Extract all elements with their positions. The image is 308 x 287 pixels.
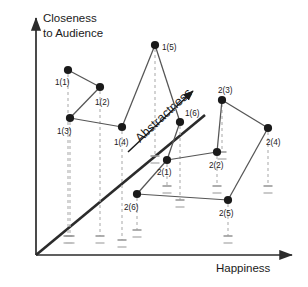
scatter-plot-svg: Closeness to Audience Happiness Abstract…: [0, 0, 308, 287]
data-point[interactable]: [163, 156, 171, 164]
data-point-label: 2(4): [266, 138, 281, 147]
series-link-line: [167, 122, 180, 160]
series-link-line: [217, 100, 222, 152]
series-link-line: [222, 100, 268, 128]
series-link-line: [228, 128, 268, 200]
series-link-line: [70, 118, 122, 127]
data-point-label: 1(3): [57, 127, 72, 136]
data-point-label: 1(1): [55, 78, 70, 87]
data-point[interactable]: [66, 114, 74, 122]
data-point[interactable]: [64, 66, 72, 74]
point-labels-group: 1(1)1(2)1(3)1(4)1(5)1(6)2(1)2(2)2(3)2(4)…: [55, 43, 281, 218]
y-axis-label-line2: to Audience: [43, 27, 103, 39]
data-point[interactable]: [96, 83, 104, 91]
data-point-label: 1(6): [185, 109, 200, 118]
data-point-label: 2(2): [209, 161, 224, 170]
data-point-label: 2(5): [219, 209, 234, 218]
abstractness-axis-line: [36, 115, 205, 255]
data-point[interactable]: [118, 123, 126, 131]
data-point[interactable]: [176, 118, 184, 126]
data-point[interactable]: [218, 96, 226, 104]
data-point[interactable]: [224, 196, 232, 204]
data-point[interactable]: [151, 41, 159, 49]
chart-container: Closeness to Audience Happiness Abstract…: [0, 0, 308, 287]
y-axis-label-line1: Closeness: [43, 12, 97, 24]
data-point-label: 1(4): [114, 138, 129, 147]
data-point[interactable]: [213, 148, 221, 156]
x-axis-label: Happiness: [216, 262, 271, 274]
series-link-line: [167, 152, 217, 160]
data-point-label: 1(2): [95, 98, 110, 107]
data-point[interactable]: [264, 124, 272, 132]
projection-lines-group: [64, 49, 273, 247]
data-point[interactable]: [133, 190, 141, 198]
series-link-line: [137, 160, 167, 194]
data-point-label: 2(1): [157, 168, 172, 177]
series-link-line: [122, 45, 155, 127]
axes-group: [36, 18, 292, 255]
series-link-line: [68, 70, 100, 87]
data-point-label: 2(6): [124, 203, 139, 212]
series-link-line: [137, 194, 228, 200]
data-point-label: 1(5): [162, 43, 177, 52]
data-point-label: 2(3): [218, 86, 233, 95]
